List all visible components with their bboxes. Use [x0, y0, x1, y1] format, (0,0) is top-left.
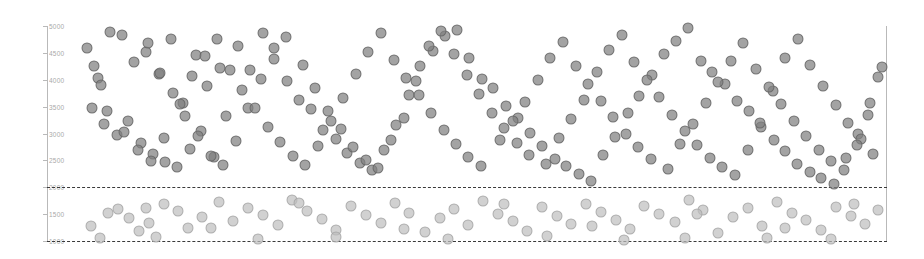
data-point	[312, 141, 323, 152]
data-point	[85, 220, 96, 231]
data-point	[860, 219, 871, 230]
data-point	[438, 124, 449, 135]
data-point	[587, 221, 598, 232]
data-point	[172, 206, 183, 217]
data-point	[360, 154, 371, 165]
data-point	[404, 208, 415, 219]
data-point	[845, 210, 856, 221]
data-point	[692, 209, 703, 220]
data-point	[330, 134, 341, 145]
data-point	[325, 115, 336, 126]
data-point	[401, 73, 412, 84]
data-point	[625, 223, 636, 234]
y-axis-tick-mark	[43, 107, 48, 108]
lower-threshold-line	[47, 241, 887, 242]
data-point	[843, 118, 854, 129]
scatter-chart: 500045004000350030002500200015001000	[0, 0, 924, 259]
data-point	[205, 222, 216, 233]
data-point	[141, 202, 152, 213]
data-point	[119, 127, 130, 138]
data-point	[413, 89, 424, 100]
data-point	[542, 231, 553, 242]
data-point	[132, 144, 143, 155]
data-point	[245, 65, 256, 76]
data-point	[780, 53, 791, 64]
data-point	[868, 148, 879, 159]
y-axis-right-line	[886, 26, 887, 242]
data-point	[662, 163, 673, 174]
data-point	[318, 125, 329, 136]
data-point	[124, 213, 135, 224]
data-point	[591, 66, 602, 77]
data-point	[561, 161, 572, 172]
data-point	[94, 233, 105, 244]
data-point	[193, 130, 204, 141]
data-point	[679, 232, 690, 243]
data-point	[123, 115, 134, 126]
data-point	[717, 162, 728, 173]
data-point	[729, 169, 740, 180]
data-point	[448, 203, 459, 214]
data-point	[233, 40, 244, 51]
data-point	[448, 49, 459, 60]
data-point	[218, 160, 229, 171]
data-point	[595, 206, 606, 217]
data-point	[463, 151, 474, 162]
data-point	[580, 198, 591, 209]
data-point	[595, 95, 606, 106]
data-point	[862, 109, 873, 120]
data-point	[243, 202, 254, 213]
data-point	[379, 144, 390, 155]
data-point	[755, 117, 766, 128]
data-point	[87, 103, 98, 114]
plot-area: 500045004000350030002500200015001000	[0, 0, 924, 259]
data-point	[158, 132, 169, 143]
data-point	[805, 60, 816, 71]
data-point	[532, 74, 543, 85]
data-point	[667, 109, 678, 120]
data-point	[620, 128, 631, 139]
data-point	[725, 56, 736, 67]
data-point	[237, 84, 248, 95]
data-point	[654, 92, 665, 103]
data-point	[851, 140, 862, 151]
data-point	[220, 110, 231, 121]
data-point	[436, 26, 447, 37]
data-point	[830, 201, 841, 212]
data-point	[160, 156, 171, 167]
y-axis-tick-mark	[43, 80, 48, 81]
data-point	[155, 68, 166, 79]
data-point	[738, 38, 749, 49]
data-point	[167, 87, 178, 98]
data-point	[363, 46, 374, 57]
y-axis-tick-label: 4000	[49, 76, 64, 83]
data-point	[499, 198, 510, 209]
data-point	[269, 53, 280, 64]
data-point	[199, 51, 210, 62]
data-point	[683, 194, 694, 205]
y-axis-tick-mark	[43, 53, 48, 54]
data-point	[180, 110, 191, 121]
data-point	[669, 217, 680, 228]
data-point	[865, 98, 876, 109]
data-point	[604, 44, 615, 55]
data-point	[476, 73, 487, 84]
data-point	[840, 153, 851, 164]
data-point	[197, 212, 208, 223]
data-point	[493, 208, 504, 219]
data-point	[82, 42, 93, 53]
data-point	[654, 209, 665, 220]
data-point	[88, 61, 99, 72]
data-point	[804, 166, 815, 177]
data-point	[172, 161, 183, 172]
data-point	[116, 30, 127, 41]
data-point	[776, 99, 787, 110]
data-point	[205, 151, 216, 162]
data-point	[434, 212, 445, 223]
data-point	[801, 130, 812, 141]
data-point	[281, 32, 292, 43]
data-point	[335, 124, 346, 135]
data-point	[763, 81, 774, 92]
data-point	[610, 131, 621, 142]
data-point	[700, 98, 711, 109]
